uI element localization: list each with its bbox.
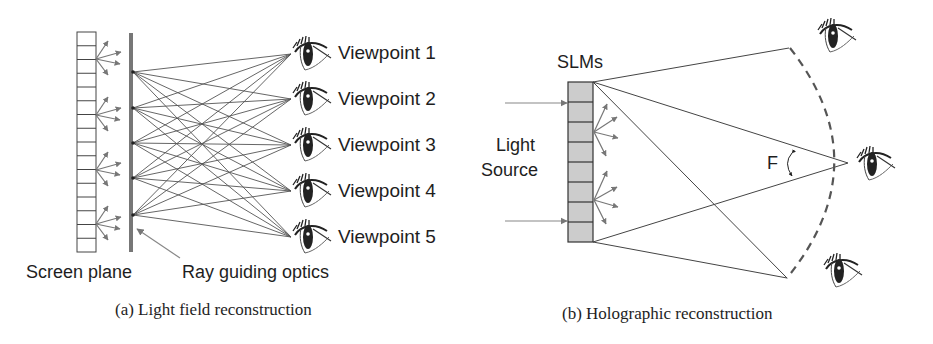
light-source-label-line2: Source [481, 160, 538, 181]
screen-plane-label: Screen plane [26, 262, 132, 283]
viewpoint-5-label: Viewpoint 5 [338, 226, 436, 248]
diagram-canvas [0, 0, 933, 344]
viewpoint-2-label: Viewpoint 2 [338, 88, 436, 110]
ray-fan [133, 54, 291, 237]
ray-guiding-optics-label: Ray guiding optics [182, 262, 329, 283]
angle-arc [788, 153, 793, 176]
viewpoint-1-label: Viewpoint 1 [338, 42, 436, 64]
caption-a: (a) Light field reconstruction [115, 300, 312, 320]
eye-icons-panel-b [818, 18, 895, 287]
screen-plane [77, 32, 96, 252]
slm-emission-arrows [594, 104, 618, 224]
pixel-emission-arrows [96, 41, 121, 240]
caption-b: (b) Holographic reconstruction [562, 304, 773, 324]
viewing-zone-arc [787, 48, 834, 278]
slm-array [568, 82, 593, 242]
slms-label: SLMs [557, 52, 603, 73]
optics-pointer-arrow [137, 229, 180, 258]
eye-icons-panel-a [293, 36, 331, 253]
viewpoint-4-label: Viewpoint 4 [338, 180, 436, 202]
angle-f-label: F [767, 153, 778, 174]
light-source-label-line1: Light [496, 135, 535, 156]
viewpoint-3-label: Viewpoint 3 [338, 134, 436, 156]
